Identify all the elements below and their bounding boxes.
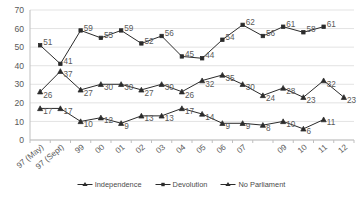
x-axis-tick-label: 99 [73,142,86,155]
data-point-marker-square [160,34,163,37]
x-axis-tick-label: 10 [296,142,309,155]
data-label: 11 [327,118,336,127]
data-point-marker-triangle [58,69,63,74]
data-label: 37 [64,70,74,79]
data-point-marker-square [281,25,284,28]
data-point-marker-square [261,34,264,37]
x-axis-tick-label: 04 [174,142,187,155]
y-axis-tick-label: 10 [14,117,24,127]
x-axis-tick-label: 09 [276,142,289,155]
data-label: 59 [84,24,94,33]
legend-item-label: Devolution [173,180,208,189]
data-label: 10 [286,120,296,129]
data-point-marker-triangle [179,106,184,111]
data-point-marker-square [59,62,62,65]
data-label: 13 [145,114,155,123]
data-point-marker-square [322,25,325,28]
data-label: 26 [43,91,53,100]
legend-marker-square-icon [155,180,171,189]
x-axis-tick-label: 01 [114,142,127,155]
data-label: 56 [266,29,276,38]
data-label: 26 [185,91,195,100]
legend-item-label: Independence [95,180,142,189]
data-label: 14 [205,113,215,122]
data-point-marker-triangle [321,117,326,122]
data-label: 23 [347,96,357,105]
series-line [40,108,324,128]
data-label: 10 [84,120,94,129]
data-label: 12 [104,116,114,125]
legend-item-no-parliament[interactable]: No Parliament [220,180,285,189]
data-point-marker-square [38,44,41,47]
x-axis-tick-label: 12 [336,142,349,155]
data-label: 30 [124,83,134,92]
data-label: 56 [165,29,175,38]
data-label: 17 [43,107,53,116]
data-label: 62 [246,18,256,27]
data-label: 9 [124,122,129,131]
y-axis-tick-label: 70 [14,5,24,15]
data-label: 23 [307,96,317,105]
data-label: 8 [266,124,271,133]
data-label: 13 [165,114,175,123]
data-point-marker-square [221,38,224,41]
data-label: 52 [145,37,155,46]
data-label: 28 [286,87,296,96]
data-point-marker-square [180,55,183,58]
data-point-marker-square [241,23,244,26]
data-point-marker-triangle [98,115,103,120]
data-label: 61 [327,20,337,29]
x-axis-tick-label: 07 [235,142,248,155]
x-axis-tick-label: 03 [154,142,167,155]
series-devolution: 514159555952564544546256615861 [38,18,336,66]
y-axis-tick-label: 60 [14,24,24,34]
data-label: 51 [43,38,53,47]
data-label: 45 [185,50,195,59]
data-label: 61 [286,20,296,29]
data-point-marker-square [119,29,122,32]
legend-item-devolution[interactable]: Devolution [155,180,208,189]
x-axis-tick-label: 05 [195,142,208,155]
x-axis-tick-labels: 97 (May)97 (Sept)99000102030405060709101… [15,142,350,171]
data-point-marker-square [140,42,143,45]
data-label: 6 [307,127,312,136]
data-label: 30 [104,83,114,92]
y-axis-tick-label: 30 [14,79,24,89]
data-point-marker-square [200,57,203,60]
data-point-marker-triangle [321,78,326,83]
data-point-marker-square [302,31,305,34]
data-label: 59 [124,24,134,33]
data-label: 17 [64,107,74,116]
data-label: 30 [246,83,256,92]
data-label: 41 [64,57,74,66]
data-label: 27 [145,89,155,98]
data-point-marker-square [79,29,82,32]
data-point-marker-square [99,36,102,39]
chart-legend: IndependenceDevolutionNo Parliament [0,176,362,192]
data-label: 9 [246,122,251,131]
data-label: 44 [205,51,215,60]
y-axis-tick-label: 0 [19,135,24,145]
legend-marker-triangle-icon [77,180,93,189]
data-label: 35 [226,74,236,83]
data-label: 32 [205,80,215,89]
data-label: 30 [165,83,175,92]
data-label: 58 [307,25,317,34]
legend-item-label: No Parliament [238,180,285,189]
data-label: 17 [185,107,195,116]
data-label: 55 [104,31,114,40]
data-label: 32 [327,80,337,89]
x-axis-tick-label: 11 [317,142,330,155]
data-label: 24 [266,94,276,103]
x-axis-tick-label: 06 [215,142,228,155]
data-label: 27 [84,89,94,98]
x-axis-tick-label: 00 [93,142,106,155]
data-point-marker-triangle [281,85,286,90]
data-point-marker-triangle [220,72,225,77]
x-axis-tick-label: 02 [134,142,147,155]
chart-plot-area: 01020304050607097 (May)97 (Sept)99000102… [0,0,362,198]
legend-item-independence[interactable]: Independence [77,180,142,189]
line-chart: 01020304050607097 (May)97 (Sept)99000102… [0,0,362,198]
data-label: 54 [226,33,236,42]
legend-marker-triangle-icon [220,180,236,189]
